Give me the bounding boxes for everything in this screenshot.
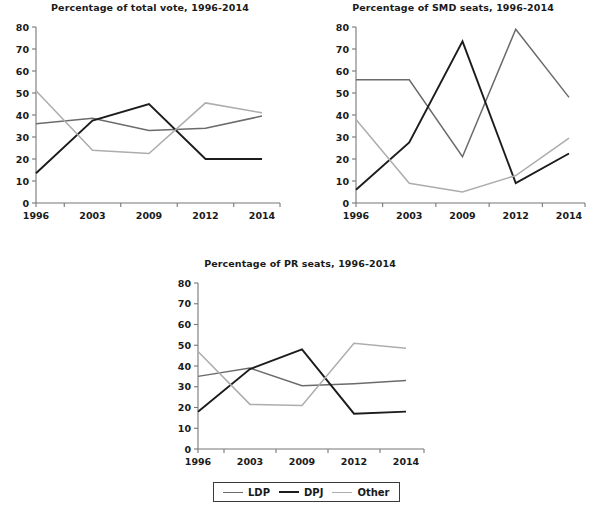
x-axis-tick-label: 1996 [185, 456, 212, 467]
chart-panel-pr-seats: Percentage of PR seats, 1996-2014 010203… [150, 258, 450, 503]
x-axis-tick-label: 2003 [396, 210, 422, 221]
y-axis-tick-label: 80 [336, 22, 350, 33]
plot-area-smd-seats: 0102030405060708019962003200920122014 [303, 13, 603, 238]
y-axis-tick-label: 60 [16, 66, 30, 77]
y-axis-tick-label: 30 [178, 381, 192, 392]
x-axis-tick-label: 2014 [393, 456, 420, 467]
y-axis-tick-label: 0 [22, 198, 29, 209]
legend-item-other: Other [332, 487, 389, 498]
plot-area-pr-seats: 0102030405060708019962003200920122014 [150, 269, 450, 484]
chart-panel-smd-seats: Percentage of SMD seats, 1996-2014 01020… [303, 2, 603, 247]
legend-label-dpj: DPJ [304, 487, 323, 498]
y-axis-tick-label: 70 [16, 44, 30, 55]
legend-swatch-dpj [279, 491, 299, 493]
x-axis-tick-label: 2012 [503, 210, 529, 221]
x-axis-tick-label: 2003 [79, 210, 105, 221]
y-axis-tick-label: 50 [336, 88, 350, 99]
y-axis-tick-label: 40 [16, 110, 30, 121]
chart-title-pr-seats: Percentage of PR seats, 1996-2014 [150, 258, 450, 269]
y-axis-tick-label: 10 [178, 423, 192, 434]
y-axis-tick-label: 0 [342, 198, 349, 209]
x-axis-tick-label: 2003 [237, 456, 263, 467]
chart-panel-total-vote: Percentage of total vote, 1996-2014 0102… [0, 2, 300, 247]
series-line-other [198, 343, 406, 405]
x-axis-tick-label: 2014 [249, 210, 276, 221]
y-axis-tick-label: 20 [178, 402, 192, 413]
legend-item-dpj: DPJ [279, 487, 323, 498]
x-axis-tick-label: 2009 [289, 456, 315, 467]
legend-swatch-ldp [223, 492, 243, 493]
legend-label-other: Other [357, 487, 389, 498]
y-axis-tick-label: 20 [16, 154, 30, 165]
series-line-dpj [198, 349, 406, 413]
chart-legend: LDP DPJ Other [213, 482, 400, 502]
series-line-dpj [356, 41, 569, 190]
chart-svg-smd-seats: 0102030405060708019962003200920122014 [303, 13, 603, 238]
y-axis-tick-label: 70 [178, 298, 192, 309]
series-line-ldp [356, 29, 569, 157]
chart-svg-total-vote: 0102030405060708019962003200920122014 [0, 13, 300, 238]
y-axis-tick-label: 20 [336, 154, 350, 165]
series-line-other [36, 91, 262, 154]
y-axis-tick-label: 80 [16, 22, 30, 33]
plot-area-total-vote: 0102030405060708019962003200920122014 [0, 13, 300, 238]
y-axis-tick-label: 60 [178, 319, 192, 330]
chart-title-smd-seats: Percentage of SMD seats, 1996-2014 [303, 2, 603, 13]
y-axis-tick-label: 50 [178, 340, 192, 351]
legend-item-ldp: LDP [223, 487, 270, 498]
legend-label-ldp: LDP [248, 487, 270, 498]
series-line-dpj [36, 104, 262, 173]
x-axis-tick-label: 2009 [136, 210, 162, 221]
y-axis-tick-label: 10 [336, 176, 350, 187]
legend-swatch-other [332, 492, 352, 493]
y-axis-tick-label: 80 [178, 278, 192, 289]
x-axis-tick-label: 2014 [556, 210, 583, 221]
chart-title-total-vote: Percentage of total vote, 1996-2014 [0, 2, 300, 13]
series-line-ldp [36, 116, 262, 130]
y-axis-tick-label: 10 [16, 176, 30, 187]
y-axis-tick-label: 30 [16, 132, 30, 143]
chart-svg-pr-seats: 0102030405060708019962003200920122014 [150, 269, 450, 484]
x-axis-tick-label: 1996 [343, 210, 370, 221]
y-axis-tick-label: 40 [336, 110, 350, 121]
y-axis-tick-label: 0 [184, 444, 191, 455]
x-axis-tick-label: 2009 [449, 210, 475, 221]
x-axis-tick-label: 2012 [192, 210, 218, 221]
y-axis-tick-label: 30 [336, 132, 350, 143]
y-axis-tick-label: 60 [336, 66, 350, 77]
x-axis-tick-label: 1996 [23, 210, 50, 221]
y-axis-tick-label: 70 [336, 44, 350, 55]
x-axis-tick-label: 2012 [341, 456, 367, 467]
y-axis-tick-label: 50 [16, 88, 30, 99]
y-axis-tick-label: 40 [178, 361, 192, 372]
